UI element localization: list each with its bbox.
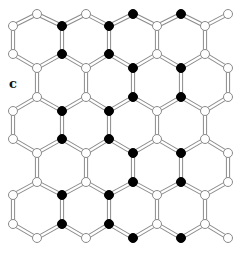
node-black <box>105 220 114 229</box>
node-white <box>33 178 42 187</box>
nodes-layer <box>9 10 233 243</box>
node-black <box>177 93 186 102</box>
node-white <box>82 93 91 102</box>
node-black <box>129 10 138 19</box>
node-black <box>129 234 138 243</box>
node-black <box>177 178 186 187</box>
node-white <box>33 10 42 19</box>
node-white <box>33 64 42 73</box>
node-white <box>82 234 91 243</box>
node-black <box>177 149 186 158</box>
honeycomb-lattice <box>0 0 239 259</box>
node-white <box>33 234 42 243</box>
node-black <box>105 50 114 59</box>
node-white <box>224 93 233 102</box>
node-white <box>9 107 18 116</box>
node-black <box>58 191 67 200</box>
node-white <box>201 22 210 31</box>
node-white <box>82 64 91 73</box>
bonds-fill-layer <box>13 14 228 238</box>
node-white <box>33 93 42 102</box>
node-white <box>201 220 210 229</box>
node-white <box>9 220 18 229</box>
node-black <box>58 135 67 144</box>
node-white <box>224 64 233 73</box>
node-white <box>153 135 162 144</box>
node-black <box>129 93 138 102</box>
node-black <box>177 234 186 243</box>
node-black <box>129 64 138 73</box>
node-black <box>105 191 114 200</box>
node-white <box>201 135 210 144</box>
node-white <box>82 178 91 187</box>
node-white <box>9 135 18 144</box>
node-white <box>9 191 18 200</box>
panel-label: c <box>9 76 17 91</box>
node-white <box>224 234 233 243</box>
node-black <box>105 107 114 116</box>
node-black <box>129 149 138 158</box>
node-black <box>58 50 67 59</box>
node-white <box>201 50 210 59</box>
node-white <box>153 107 162 116</box>
node-black <box>58 22 67 31</box>
node-white <box>153 50 162 59</box>
node-black <box>177 64 186 73</box>
node-white <box>224 178 233 187</box>
node-white <box>153 220 162 229</box>
node-black <box>58 220 67 229</box>
node-white <box>224 149 233 158</box>
node-black <box>177 10 186 19</box>
node-black <box>58 107 67 116</box>
node-white <box>33 149 42 158</box>
node-white <box>224 10 233 19</box>
node-white <box>82 149 91 158</box>
node-white <box>9 50 18 59</box>
node-black <box>105 22 114 31</box>
node-white <box>9 22 18 31</box>
node-white <box>201 107 210 116</box>
node-black <box>129 178 138 187</box>
node-white <box>82 10 91 19</box>
bonds-outline-layer <box>13 14 228 238</box>
node-white <box>153 22 162 31</box>
node-black <box>105 135 114 144</box>
node-white <box>201 191 210 200</box>
node-white <box>153 191 162 200</box>
